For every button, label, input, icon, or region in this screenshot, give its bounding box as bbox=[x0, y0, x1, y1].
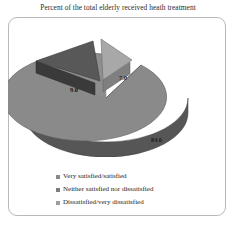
pie-label-minor: 7.0 bbox=[119, 74, 127, 81]
legend-item-label: Neither satisfied nor dissatisfied bbox=[63, 186, 153, 193]
pie-label-mid: 9.0 bbox=[70, 86, 78, 93]
chart-legend: Very satisfied/satisfied Neither satisfi… bbox=[56, 170, 221, 209]
legend-item-dissatisfied: Dissatisfied/very dissatisfied bbox=[56, 196, 221, 209]
legend-swatch-icon bbox=[56, 188, 60, 192]
page-title: Percent of the total elderly received he… bbox=[0, 3, 236, 12]
legend-item-neither: Neither satisfied nor dissatisfied bbox=[56, 183, 221, 196]
legend-item-label: Dissatisfied/very dissatisfied bbox=[63, 199, 144, 206]
pie-chart: 84.0 9.0 7.0 bbox=[8, 17, 226, 157]
legend-item-very-satisfied: Very satisfied/satisfied bbox=[56, 170, 221, 183]
pie-chart-svg bbox=[8, 17, 226, 157]
legend-item-label: Very satisfied/satisfied bbox=[63, 173, 127, 180]
legend-swatch-icon bbox=[56, 201, 60, 205]
legend-swatch-icon bbox=[56, 175, 60, 179]
pie-label-major: 84.0 bbox=[151, 136, 162, 143]
